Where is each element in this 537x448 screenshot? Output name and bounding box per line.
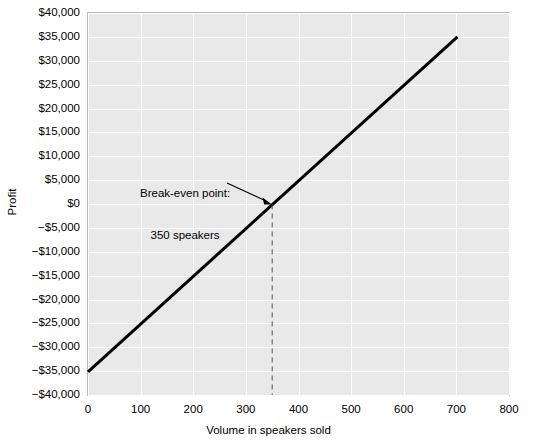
chart-figure: $40,000 $35,000 $30,000 $25,000 $20,000 … <box>0 0 537 448</box>
x-tick-label: 200 <box>173 403 213 415</box>
x-tick-label: 100 <box>121 403 161 415</box>
x-tick-label: 800 <box>489 403 529 415</box>
y-axis-title: Profit <box>6 162 18 242</box>
x-tick-label: 600 <box>384 403 424 415</box>
x-tick-label: 500 <box>331 403 371 415</box>
x-tick-label: 300 <box>226 403 266 415</box>
breakeven-annotation-line1: Break-even point: <box>140 186 230 200</box>
x-tick-label: 0 <box>68 403 108 415</box>
breakeven-annotation: Break-even point: 350 speakers <box>140 158 230 270</box>
x-tick-label: 700 <box>436 403 476 415</box>
x-axis-title: Volume in speakers sold <box>0 424 537 436</box>
breakeven-annotation-line2: 350 speakers <box>140 228 230 242</box>
x-axis-tick-labels: 0 100 200 300 400 500 600 700 800 <box>0 0 537 448</box>
x-tick-label: 400 <box>279 403 319 415</box>
